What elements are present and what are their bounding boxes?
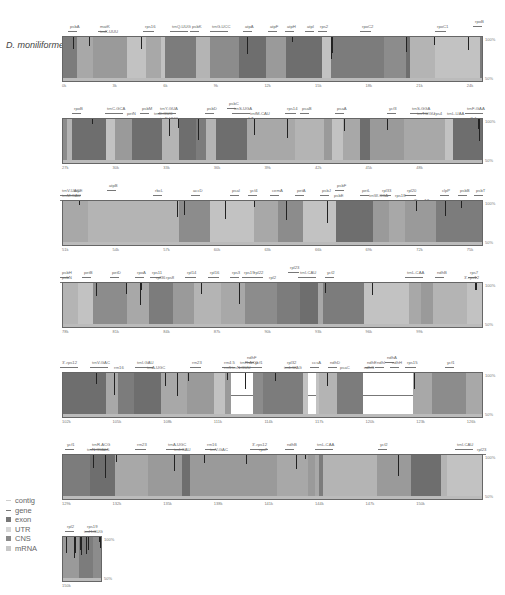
gene-arrow: [285, 449, 294, 450]
gene-label: psaI: [232, 188, 240, 193]
gene-label: petB: [84, 270, 93, 275]
exon-swatch-icon: [6, 517, 11, 522]
identity-track: [62, 118, 483, 164]
gene-label: ndhH: [392, 360, 402, 365]
gene-arrow: [253, 367, 262, 368]
gene-arrow: [243, 31, 252, 32]
x-tick-label: 27k: [62, 165, 68, 170]
y-axis-bottom-label: 50%: [485, 240, 493, 245]
gene-arrow: [190, 31, 199, 32]
gene-label: rps14: [287, 106, 297, 111]
gene-label: rpoC2: [362, 24, 373, 29]
gene-arrow: [360, 195, 369, 196]
gene-arrow: [90, 367, 108, 368]
legend-utr: UTR: [6, 525, 37, 535]
x-tick-label: 84k: [163, 329, 169, 334]
gene-arrow: [300, 113, 309, 114]
x-tick-label: 81k: [113, 329, 119, 334]
gene-arrow: [252, 277, 263, 278]
gene-arrow: [140, 113, 149, 114]
gene-label: ycf2: [327, 270, 335, 275]
gene-label: rps3: [232, 270, 240, 275]
gene-label: trnA-UGC: [147, 365, 165, 370]
gene-arrow: [110, 277, 119, 278]
gene-arrow: [387, 113, 396, 114]
gene-arrow: [230, 277, 239, 278]
gene-label: psbB: [460, 188, 470, 193]
x-tick-label: 108k: [163, 419, 172, 424]
legend-contig: contig: [6, 496, 37, 506]
gene-arrow-icon: [6, 510, 11, 511]
gene-label: rrn23: [192, 360, 202, 365]
identity-track: [62, 536, 102, 582]
gene-label: rbcL: [155, 188, 163, 193]
x-tick-label: 30k: [113, 165, 119, 170]
gene-arrow: [335, 190, 344, 191]
gene-arrow: [65, 531, 74, 532]
gene-label: atpI: [307, 24, 314, 29]
gene-arrow: [405, 367, 416, 368]
gene-label: rps2: [320, 24, 328, 29]
legend-cns: CNS: [6, 534, 37, 544]
x-tick-label: 24k: [467, 83, 473, 88]
x-tick-label: 54k: [113, 247, 119, 252]
x-tick-label: 0k: [62, 83, 66, 88]
gene-label: trnI-CAU: [300, 270, 316, 275]
gene-label: trnL-UAA: [447, 111, 464, 116]
gene-label: psbE: [334, 193, 344, 198]
x-tick-label: 117k: [315, 419, 323, 424]
gene-label: ndhG: [364, 365, 374, 370]
y-axis-top-label: 100%: [485, 201, 495, 206]
gene-arrow: [474, 195, 483, 196]
gene-label: psaA: [337, 106, 347, 111]
gene-arrow: [185, 277, 196, 278]
gene-label: ycf3: [389, 106, 397, 111]
x-tick-label: 150k: [62, 583, 71, 588]
gene-arrow: [143, 31, 154, 32]
gene-label: rps7: [259, 447, 267, 452]
x-tick-label: 12k: [264, 83, 270, 88]
identity-track: [62, 282, 483, 328]
gene-label: psbF: [337, 183, 346, 188]
gene-label: trnI-CAU: [457, 442, 473, 447]
gene-label: atpH: [287, 24, 296, 29]
x-tick-label: 123k: [416, 419, 425, 424]
gene-arrow: [458, 195, 467, 196]
gene-label: trnI-GAU: [174, 447, 191, 452]
gene-label: rps16: [145, 24, 155, 29]
gene-arrow: [325, 277, 334, 278]
gene-arrow: [245, 362, 254, 363]
gene-arrow: [268, 31, 277, 32]
x-tick-label: 42k: [315, 165, 321, 170]
gene-label: cemA: [272, 188, 283, 193]
gene-label: psbD: [207, 106, 217, 111]
gene-label: petA: [297, 188, 306, 193]
x-tick-label: 144k: [315, 501, 324, 506]
y-axis-top-label: 100%: [485, 37, 495, 42]
y-axis-bottom-label: 50%: [485, 76, 493, 81]
gene-arrow: [72, 113, 81, 114]
gene-arrow: [378, 449, 387, 450]
y-axis-top-label: 100%: [485, 283, 495, 288]
gene-label: rpoB: [475, 19, 484, 24]
gene-arrow: [295, 195, 304, 196]
gene-arrow: [135, 449, 146, 450]
gene-label: rpl23: [477, 447, 486, 452]
x-tick-label: 39k: [264, 165, 270, 170]
gene-label: rpl2: [67, 524, 74, 529]
x-tick-label: 36k: [214, 165, 220, 170]
x-tick-label: 63k: [264, 247, 270, 252]
utr-swatch-icon: [6, 527, 11, 532]
gene-label: psbM: [142, 106, 152, 111]
x-tick-label: 9k: [214, 83, 218, 88]
y-axis-top-label: 100%: [485, 455, 495, 460]
gene-label: rrn5: [102, 447, 109, 452]
gene-arrow: [190, 367, 201, 368]
x-tick-label: 99k: [416, 329, 422, 334]
x-tick-label: 126k: [467, 419, 476, 424]
gene-arrow: [105, 113, 123, 114]
gene-arrow: [135, 277, 144, 278]
x-tick-label: 75k: [467, 247, 473, 252]
gene-label: rpl16: [210, 270, 219, 275]
gene-label: trnL-CAA: [317, 442, 334, 447]
